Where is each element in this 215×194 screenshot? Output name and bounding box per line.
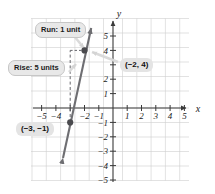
- point-upper-label: (−2, 4): [120, 58, 153, 72]
- run-callout: Run: 1 unit: [35, 22, 86, 38]
- run-callout-label: Run: 1 unit: [41, 25, 80, 34]
- coordinate-plane: −5 −4 −2 −1 1 2 3 4 5 5 4 2 1 −1 −2 −3 −…: [0, 0, 215, 194]
- y-tick-label: 5: [104, 31, 109, 41]
- y-tick-label: 2: [104, 74, 109, 84]
- data-point-lower[interactable]: [67, 119, 73, 125]
- rise-callout-label: Rise: 5 units: [14, 63, 59, 72]
- x-tick-label: −4: [51, 111, 62, 121]
- data-point-upper[interactable]: [81, 47, 87, 53]
- x-tick-label: 5: [182, 111, 187, 121]
- x-tick-label: −5: [36, 111, 47, 121]
- x-tick-label: 1: [125, 111, 130, 121]
- point-lower-label: (−3, −1): [16, 122, 54, 136]
- point-upper-label-text: (−2, 4): [125, 60, 148, 69]
- y-tick-label: 1: [104, 89, 109, 99]
- x-tick-label: −2: [79, 111, 90, 121]
- y-axis-name: y: [116, 8, 122, 19]
- y-tick-label: −4: [97, 161, 108, 171]
- rise-callout: Rise: 5 units: [8, 60, 65, 76]
- point-lower-label-text: (−3, −1): [21, 124, 49, 133]
- y-tick-label: −1: [97, 118, 108, 128]
- y-tick-label: −5: [97, 175, 108, 185]
- y-tick-label: −3: [97, 146, 108, 156]
- x-axis-name: x: [195, 103, 201, 114]
- x-tick-label: 2: [139, 111, 144, 121]
- slope-graph-figure: −5 −4 −2 −1 1 2 3 4 5 5 4 2 1 −1 −2 −3 −…: [0, 0, 215, 194]
- x-tick-label: 3: [153, 111, 159, 121]
- x-tick-label: 4: [168, 111, 173, 121]
- y-tick-label: −2: [97, 132, 108, 142]
- y-tick-label: 4: [104, 46, 109, 56]
